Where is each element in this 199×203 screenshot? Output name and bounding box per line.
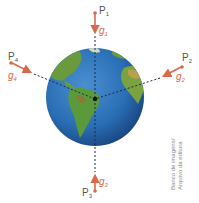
credit-line-2: Arquivo da editora bbox=[177, 139, 184, 190]
credit-line-1: Banco de imagens/ bbox=[170, 139, 177, 190]
label-P1: P1 bbox=[99, 6, 109, 17]
label-P3: P3 bbox=[82, 188, 92, 199]
label-P4: P4 bbox=[8, 52, 18, 63]
label-P2: P2 bbox=[182, 53, 192, 64]
label-g4: g4 bbox=[8, 71, 17, 82]
label-g3: g3 bbox=[99, 177, 108, 188]
point-P1 bbox=[93, 11, 97, 15]
point-P2 bbox=[180, 65, 184, 69]
label-g1: g1 bbox=[99, 26, 108, 37]
image-credit: Banco de imagens/ Arquivo da editora bbox=[170, 139, 184, 190]
earth-center-point bbox=[93, 97, 97, 101]
earth-globe bbox=[46, 47, 146, 146]
point-P3 bbox=[93, 189, 97, 193]
label-g2: g2 bbox=[176, 72, 185, 83]
